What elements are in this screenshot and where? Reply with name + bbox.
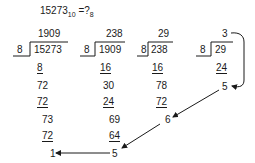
arrow-to-5 bbox=[122, 124, 160, 148]
division-bracket-1 bbox=[13, 42, 68, 56]
curve-arrow bbox=[231, 33, 244, 87]
arrow-to-6 bbox=[173, 90, 219, 117]
division-bracket-3 bbox=[137, 42, 173, 56]
diagram-lines bbox=[0, 0, 255, 163]
division-bracket-4 bbox=[196, 42, 233, 56]
division-bracket-2 bbox=[80, 42, 125, 56]
